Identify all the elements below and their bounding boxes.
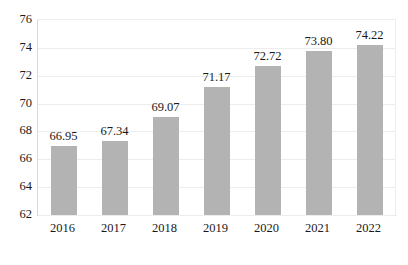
bar-slot: 73.80 [293, 20, 344, 215]
bar[interactable] [357, 45, 383, 215]
bar[interactable] [153, 117, 179, 215]
bar-chart: 6264666870727476 66.9567.3469.0771.1772.… [0, 0, 408, 265]
bar[interactable] [204, 87, 230, 215]
x-axis-tick-label: 2020 [254, 222, 279, 235]
bar-value-label: 71.17 [202, 71, 230, 84]
y-axis-tick-label: 74 [2, 41, 32, 54]
bar-slot: 69.07 [140, 20, 191, 215]
plot-area: 66.9567.3469.0771.1772.7273.8074.22 [37, 19, 396, 216]
x-axis-tick-label: 2018 [152, 222, 177, 235]
bar-value-label: 69.07 [151, 101, 179, 114]
x-axis-tick-label: 2021 [305, 222, 330, 235]
bar-value-label: 67.34 [100, 125, 128, 138]
bar[interactable] [306, 51, 332, 215]
bar-slot: 74.22 [344, 20, 395, 215]
bar[interactable] [102, 141, 128, 215]
x-axis-tick-label: 2016 [50, 222, 75, 235]
y-axis-tick-label: 72 [2, 68, 32, 81]
gridline [38, 215, 395, 216]
x-axis-tick-label: 2017 [101, 222, 126, 235]
y-axis-tick-label: 68 [2, 124, 32, 137]
bar-value-label: 72.72 [253, 50, 281, 63]
y-axis-tick-label: 62 [2, 208, 32, 221]
bar-value-label: 74.22 [355, 29, 383, 42]
bar[interactable] [51, 146, 77, 215]
bar-value-label: 73.80 [304, 35, 332, 48]
bar-slot: 72.72 [242, 20, 293, 215]
y-axis-tick-label: 66 [2, 152, 32, 165]
x-axis-tick-label: 2022 [356, 222, 381, 235]
y-axis-tick-label: 64 [2, 180, 32, 193]
bar-slot: 71.17 [191, 20, 242, 215]
bar-slot: 66.95 [38, 20, 89, 215]
y-axis-tick-label: 76 [2, 13, 32, 26]
bar[interactable] [255, 66, 281, 215]
bar-slot: 67.34 [89, 20, 140, 215]
bar-value-label: 66.95 [49, 130, 77, 143]
x-axis-tick-label: 2019 [203, 222, 228, 235]
y-axis-tick-label: 70 [2, 96, 32, 109]
